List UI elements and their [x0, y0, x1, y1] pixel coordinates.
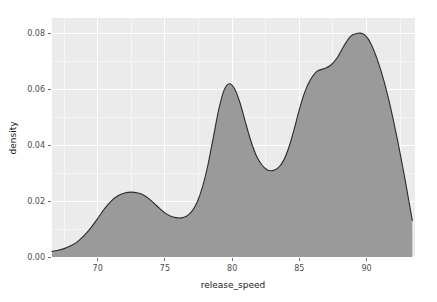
x-tick-label: 70 — [93, 264, 103, 273]
y-tick-label: 0.02 — [27, 197, 45, 206]
y-tick-label: 0.08 — [27, 29, 45, 38]
y-axis-title: density — [8, 121, 18, 155]
x-tick-label: 85 — [294, 264, 304, 273]
y-tick-label: 0.06 — [27, 85, 45, 94]
x-tick-label: 80 — [227, 264, 237, 273]
y-tick-label: 0.00 — [27, 253, 45, 262]
x-tick-label: 75 — [160, 264, 170, 273]
x-tick-label: 90 — [362, 264, 372, 273]
density-plot-figure: 7075808590 0.000.020.040.060.08 release_… — [0, 0, 437, 302]
chart-canvas: 7075808590 0.000.020.040.060.08 release_… — [0, 0, 437, 302]
y-tick-label: 0.04 — [27, 141, 45, 150]
x-axis-title: release_speed — [201, 280, 266, 290]
